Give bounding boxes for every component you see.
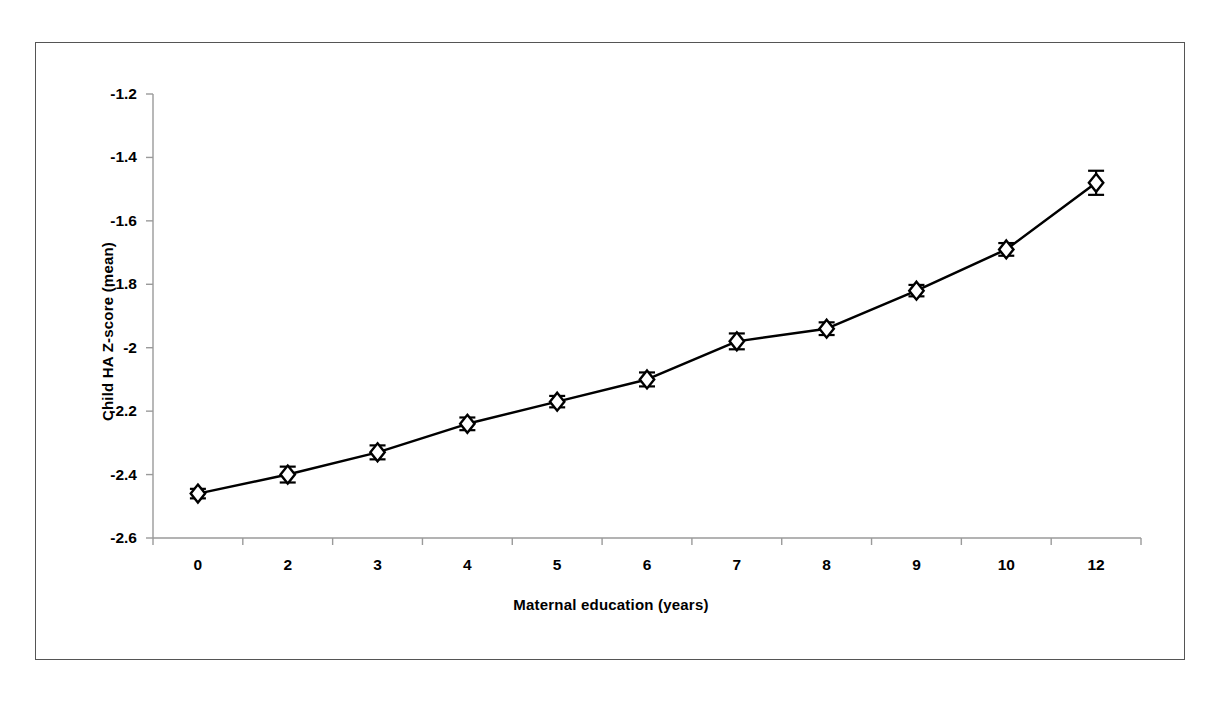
x-axis-title: Maternal education (years): [36, 596, 1186, 613]
data-point-marker: [1089, 174, 1103, 192]
y-tick-label: -1.4: [75, 148, 137, 166]
figure-frame: Child HA Z-score (mean) Maternal educati…: [35, 42, 1185, 660]
x-tick-label: 0: [173, 556, 223, 574]
x-axis-ticks: [153, 538, 1141, 545]
y-axis-ticks: [146, 94, 153, 538]
x-tick-label: 7: [712, 556, 762, 574]
y-axis-title: Child HA Z-score (mean): [99, 242, 116, 421]
x-tick-label: 8: [802, 556, 852, 574]
y-tick-label: -2.6: [75, 529, 137, 547]
y-tick-label: -1.6: [75, 212, 137, 230]
x-tick-label: 10: [981, 556, 1031, 574]
data-series: [190, 171, 1104, 503]
x-tick-label: 2: [263, 556, 313, 574]
data-point-marker: [191, 485, 205, 503]
data-point-marker: [281, 466, 295, 484]
x-tick-label: 3: [353, 556, 403, 574]
x-tick-label: 12: [1071, 556, 1121, 574]
x-tick-label: 5: [532, 556, 582, 574]
x-tick-label: 6: [622, 556, 672, 574]
x-tick-label: 4: [442, 556, 492, 574]
y-tick-label: -1.8: [75, 275, 137, 293]
y-tick-label: -2: [75, 339, 137, 357]
y-tick-label: -2.2: [75, 402, 137, 420]
x-tick-label: 9: [891, 556, 941, 574]
data-point-marker: [730, 332, 744, 350]
y-tick-label: -2.4: [75, 466, 137, 484]
y-tick-label: -1.2: [75, 85, 137, 103]
